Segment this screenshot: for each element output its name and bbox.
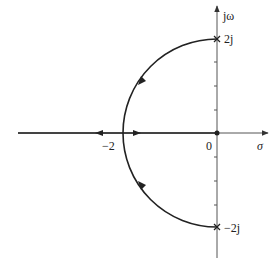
breakaway-label: −2 — [102, 139, 115, 153]
real-axis-label: σ — [257, 139, 264, 153]
lower-crossing-label: −2j — [224, 221, 240, 235]
imag-axis-label: jω — [222, 9, 234, 23]
root-locus-diagram: jω σ 0 −2 2j −2j — [0, 0, 280, 270]
locus-lower-arc — [123, 133, 217, 227]
arrow-left-icon — [95, 130, 103, 136]
origin-pole-marker — [215, 131, 220, 136]
upper-crossing-label: 2j — [224, 32, 233, 46]
locus-upper-arc — [123, 39, 217, 133]
origin-label: 0 — [206, 139, 212, 153]
arrow-right-icon — [133, 130, 141, 136]
